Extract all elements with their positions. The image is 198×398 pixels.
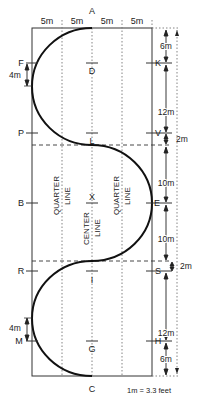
width-label-1: 5m (41, 16, 54, 26)
letter-G: G (88, 344, 95, 354)
width-label-4: 5m (131, 16, 144, 26)
quarter-line-right-label-1: QUARTER (112, 176, 121, 215)
width-label-2: 5m (71, 16, 84, 26)
letter-L: L (89, 136, 94, 146)
center-line-label-2: LINE (93, 219, 102, 237)
dim-upper-2m: 2m (176, 134, 188, 144)
letter-F: F (18, 58, 24, 68)
center-line-label-1: CENTER (82, 212, 91, 245)
dim-mid-lower-10m: 10m (158, 234, 175, 244)
arrow-down-icon (175, 368, 179, 374)
letter-B: B (18, 198, 24, 208)
letter-D: D (89, 66, 96, 76)
dim-lower-2m: 2m (180, 261, 192, 271)
letter-M: M (15, 336, 23, 346)
letter-E: E (154, 198, 160, 208)
letter-A: A (89, 6, 95, 16)
dim-F-4m: 4m (9, 70, 21, 80)
dim-M-4m: 4m (9, 323, 21, 333)
dim-top-6m: 6m (160, 41, 172, 51)
letter-V: V (155, 128, 161, 138)
arrow-up-icon (175, 30, 179, 36)
letter-P: P (18, 128, 24, 138)
dim-upper-12m: 12m (158, 107, 175, 117)
serpentine-path (32, 28, 152, 376)
letter-S: S (155, 266, 161, 276)
serpentine-arena-diagram: 5m 5m 5m 5m A C F P B R M K V E S H D L … (0, 0, 198, 398)
width-label-3: 5m (101, 16, 114, 26)
quarter-line-right-label-2: LINE (123, 187, 132, 205)
dim-mid-upper-10m: 10m (158, 178, 175, 188)
letter-R: R (18, 266, 25, 276)
quarter-line-left-label-1: QUARTER (52, 176, 61, 215)
arena-boundary (32, 28, 152, 376)
quarter-line-left-label-2: LINE (63, 187, 72, 205)
scale-note: 1m = 3.3 feet (127, 386, 172, 395)
dim-bottom-6m: 6m (160, 354, 172, 364)
letter-C: C (89, 384, 96, 394)
letter-X: X (89, 192, 95, 202)
letter-I: I (91, 275, 94, 285)
letter-K: K (155, 58, 161, 68)
dim-lower-12m: 12m (158, 328, 175, 338)
